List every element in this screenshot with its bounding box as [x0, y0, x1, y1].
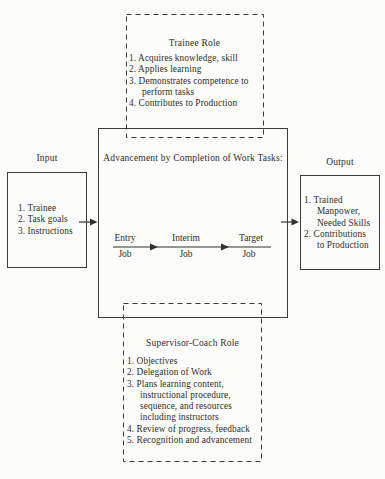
input-item: 2. Task goals: [18, 214, 84, 225]
supervisor-role-item: 3. Plans learning content, instructional…: [127, 379, 263, 424]
trainee-role-item: 1. Acquires knowledge, skill: [129, 53, 263, 64]
output-item: 2. Contributions to Production: [304, 229, 378, 252]
trainee-role-item: 2. Applies learning: [129, 64, 263, 75]
entry-job-label-bottom: Job: [103, 249, 147, 259]
supervisor-role-title: Supervisor-Coach Role: [123, 338, 262, 348]
work-tasks-caption: Advancement by Completion of Work Tasks:: [98, 153, 288, 163]
trainee-role-list: 1. Acquires knowledge, skill2. Applies l…: [129, 53, 263, 109]
input-list: 1. Trainee2. Task goals3. Instructions: [18, 203, 84, 237]
supervisor-role-list: 1. Objectives2. Delegation of Work3. Pla…: [127, 356, 263, 446]
diagram-canvas: Trainee Role 1. Acquires knowledge, skil…: [0, 0, 385, 479]
supervisor-role-item: 4. Review of progress, feedback: [127, 424, 263, 435]
trainee-role-item: 4. Contributes to Production: [129, 98, 263, 109]
input-item: 3. Instructions: [18, 226, 84, 237]
interim-job-label-bottom: Job: [162, 249, 210, 259]
supervisor-role-item: 2. Delegation of Work: [127, 367, 263, 378]
output-arrow-head-icon: [292, 219, 300, 226]
output-item: 1. Trained Manpower, Needed Skills: [304, 195, 378, 229]
input-arrow-head-icon: [90, 219, 98, 226]
target-job-label-bottom: Job: [227, 249, 271, 259]
entry-job-label-top: Entry: [103, 233, 147, 243]
trainee-role-title: Trainee Role: [126, 38, 263, 48]
output-list: 1. Trained Manpower, Needed Skills2. Con…: [304, 195, 378, 251]
output-title: Output: [300, 157, 380, 167]
trainee-role-item: 3. Demonstrates competence to perform ta…: [129, 76, 263, 99]
supervisor-role-item: 1. Objectives: [127, 356, 263, 367]
target-job-label-top: Target: [227, 233, 275, 243]
input-item: 1. Trainee: [18, 203, 84, 214]
interim-job-label-top: Interim: [162, 233, 210, 243]
supervisor-role-item: 5. Recognition and advancement: [127, 435, 263, 446]
input-title: Input: [7, 153, 87, 163]
